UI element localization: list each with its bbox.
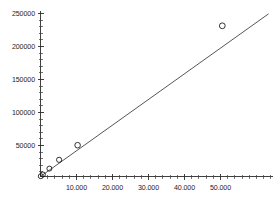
y-tick-labels: 250000 200000 150000 100000 50000	[12, 10, 35, 150]
data-point-marker	[75, 142, 81, 148]
x-tick-label: 30.000	[138, 184, 159, 192]
y-tick-label: 150000	[12, 76, 35, 84]
x-tick-label: 20.000	[102, 184, 123, 192]
y-tick-label: 50000	[16, 142, 35, 150]
y-tick-label: 100000	[12, 109, 35, 117]
x-tick-label: 10.000	[66, 184, 87, 192]
linear-fit-line	[41, 14, 269, 177]
x-tick-label: 40.000	[174, 184, 195, 192]
x-tick-label: 50.000	[210, 184, 231, 192]
fit-line-group	[41, 14, 269, 177]
scatter-plot-svg: 250000 200000 150000 100000 50000 10.000…	[0, 0, 280, 199]
y-tick-label: 250000	[12, 10, 35, 18]
y-tick-label: 200000	[12, 43, 35, 51]
data-point-marker	[57, 157, 62, 162]
data-point-markers	[38, 23, 225, 179]
x-tick-labels: 10.000 20.000 30.000 40.000 50.000	[66, 184, 231, 192]
chart-container: 250000 200000 150000 100000 50000 10.000…	[0, 0, 280, 199]
data-point-marker	[219, 23, 225, 29]
